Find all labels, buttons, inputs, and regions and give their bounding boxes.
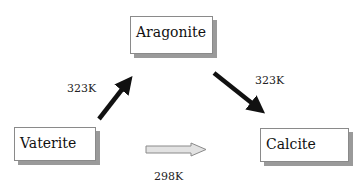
node-aragonite: Aragonite	[130, 16, 213, 54]
node-label: Calcite	[266, 136, 316, 152]
node-vaterite: Vaterite	[14, 127, 96, 161]
arrow-vaterite-aragonite	[99, 83, 127, 119]
node-label: Aragonite	[136, 24, 206, 40]
node-label: Vaterite	[20, 135, 76, 151]
edge-label-aragonite-calcite: 323K	[255, 74, 284, 87]
arrow-aragonite-calcite	[214, 73, 258, 108]
edge-label-vaterite-aragonite: 323K	[67, 82, 96, 95]
node-calcite: Calcite	[260, 128, 349, 162]
edge-label-vaterite-calcite: 298K	[154, 170, 183, 183]
arrow-vaterite-calcite	[146, 143, 206, 156]
